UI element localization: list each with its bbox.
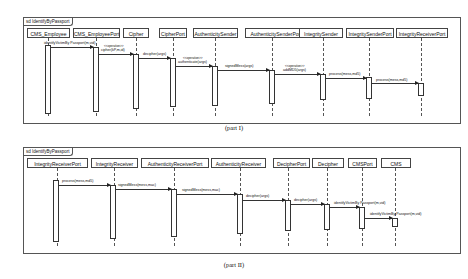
message-label: identifyVictimBy Passport(m,vid) <box>44 41 95 45</box>
message-label: cipher(kP,m,id) <box>101 48 125 52</box>
lifeline-integrity-sender: IntegritySender <box>299 28 343 38</box>
message-arrow <box>51 47 93 48</box>
message-label: process(mess,md5) <box>329 72 361 76</box>
activation-bar <box>366 77 372 99</box>
message-label: decipher(args) <box>246 194 269 198</box>
lifeline-decipher: Decipher <box>312 158 344 168</box>
activation-bar <box>269 70 275 104</box>
message-label: signedMess(args) <box>225 64 254 68</box>
lifeline-cms: CMS <box>381 158 411 168</box>
message-arrow <box>365 218 392 219</box>
lifeline-cipher-port: CipherPort <box>159 28 187 38</box>
lifeline-cms-employee-port: CMS_EmployeePort <box>73 28 120 38</box>
lifeline-cms-port: CMSPort <box>348 158 377 168</box>
lifeline-integrity-sender-port: IntegritySenderPort <box>346 28 394 38</box>
message-arrow <box>116 189 171 190</box>
message-arrow <box>330 207 359 208</box>
message-arrow <box>176 66 212 67</box>
message-arrow <box>326 78 366 79</box>
lifeline-integrity-receiver-port: IntegrityReceiverPort <box>396 28 448 38</box>
message-label: decipher(args) <box>143 52 166 56</box>
activation-bar <box>93 47 99 112</box>
part2-frame-label: sd IdentifyByPassport <box>24 148 73 156</box>
lifeline-decipher-port: DecipherPort <box>273 158 310 168</box>
part2-caption: (part II) <box>0 261 468 268</box>
message-arrow <box>218 70 269 71</box>
activation-bar <box>133 54 139 109</box>
message-label: addMD5(args) <box>283 68 306 72</box>
activation-bar <box>171 189 177 237</box>
message-label: signedMess(mess,mac) <box>118 183 156 187</box>
lifeline-line <box>421 38 422 116</box>
lifeline-integrity-receiver-port: IntegrityReceiverPort <box>27 158 88 168</box>
lifeline-authenticity-receiver-port: AuthenticityReceiverPort <box>141 158 209 168</box>
lifeline-integrity-receiver: IntegrityReceiver <box>91 158 138 168</box>
activation-bar <box>110 185 116 239</box>
activation-bar <box>45 45 51 114</box>
activation-bar <box>212 66 218 106</box>
message-label: process(mess,md5) <box>376 78 408 82</box>
message-arrow <box>291 204 324 205</box>
message-label: authenticate(args) <box>178 60 207 64</box>
lifeline-authenticity-sender-port: AuthenticitySenderPort <box>245 28 307 38</box>
message-arrow <box>243 200 285 201</box>
lifeline-authenticity-sender: AuthenticitySender <box>193 28 238 38</box>
message-arrow <box>177 194 237 195</box>
message-arrow <box>99 54 133 55</box>
message-label: signedMess(mess,mac) <box>182 188 220 192</box>
message-arrow <box>275 74 320 75</box>
message-label: identifyVictimBy Passport(m,vid) <box>334 201 385 205</box>
message-label: decipher(args) <box>294 198 317 202</box>
lifeline-authenticity-receiver: AuthenticityReceiver <box>211 158 266 168</box>
part1-caption: (part I) <box>0 124 468 131</box>
message-arrow <box>59 185 110 186</box>
message-label: identifyVictimBy Passport(m,vid) <box>370 212 421 216</box>
message-arrow <box>139 58 170 59</box>
lifeline-line <box>395 168 396 246</box>
part1-frame-label: sd IdentifyByPassport <box>24 18 73 26</box>
activation-bar <box>53 180 59 242</box>
lifeline-cms-employee: CMS_Employee <box>27 28 70 38</box>
lifeline-cipher: Cipher <box>123 28 149 38</box>
message-label: process(mess,md5) <box>62 179 94 183</box>
message-arrow <box>372 83 418 84</box>
